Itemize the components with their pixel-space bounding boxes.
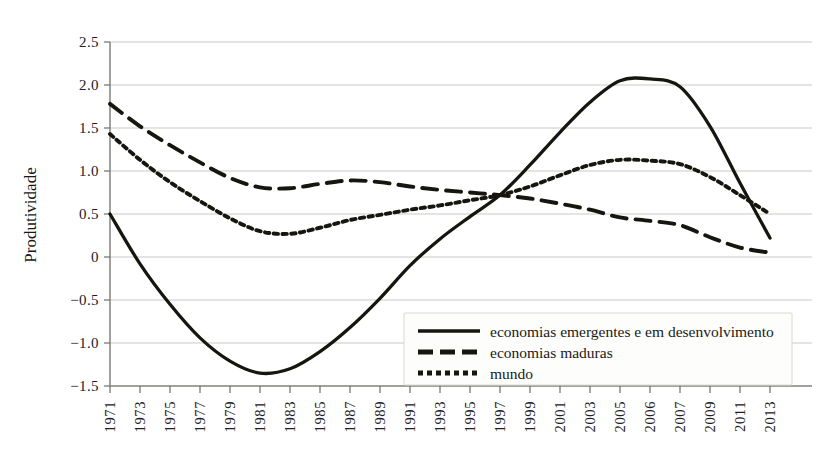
x-tick-label: 2003 [582,401,598,432]
y-tick-label: −1.0 [70,335,99,351]
x-tick-label: 1989 [372,401,388,432]
x-tick-label: 1971 [102,401,118,432]
y-tick-labels: 2.52.01.51.00.50−0.5−1.0−1.5 [70,34,99,394]
series-line-dotted [110,134,770,234]
x-tick-label: 1997 [492,401,508,432]
x-tick-label: 2013 [762,401,778,432]
y-tick-label: −1.5 [70,378,99,394]
y-tick-label: 1.0 [79,163,99,179]
x-axis-ticks [110,386,770,393]
x-tick-label: 1985 [312,401,328,432]
x-tick-label: 1991 [402,401,418,432]
x-tick-label: 1981 [252,401,268,432]
x-tick-label: 1977 [192,401,208,432]
x-tick-label: 2009 [702,401,718,432]
chart-figure: 2.52.01.51.00.50−0.5−1.0−1.5 19711973197… [0,0,832,467]
x-tick-label: 1999 [522,401,538,432]
x-tick-label: 1987 [342,401,358,432]
productivity-line-chart: 2.52.01.51.00.50−0.5−1.0−1.5 19711973197… [0,0,832,467]
legend-label: economias maduras [490,344,613,361]
x-tick-label: 2001 [552,401,568,432]
y-tick-label: 0 [91,249,99,265]
chart-legend: economias emergentes e em desenvolviment… [404,313,792,385]
series-line-dashed [110,104,770,253]
x-tick-label: 2006 [642,401,658,432]
y-tick-label: 0.5 [79,206,99,222]
x-tick-label: 1983 [282,401,298,432]
x-tick-label: 2005 [612,401,628,432]
x-tick-label: 1979 [222,401,238,432]
legend-label: economias emergentes e em desenvolviment… [490,323,774,340]
x-tick-label: 1975 [162,401,178,432]
x-tick-label: 2007 [672,401,688,432]
x-tick-labels: 1971197319751977197919811983198519871989… [102,401,778,432]
y-tick-label: 1.5 [79,120,99,136]
x-tick-label: 1973 [132,401,148,432]
y-tick-label: −0.5 [70,292,99,308]
y-tick-label: 2.0 [79,77,99,93]
legend-label: mundo [490,365,533,382]
x-tick-label: 1995 [462,401,478,432]
x-tick-label: 1993 [432,401,448,432]
x-tick-label: 2011 [732,401,748,432]
y-tick-label: 2.5 [79,34,99,50]
y-axis-title: Produtividade [21,167,40,262]
